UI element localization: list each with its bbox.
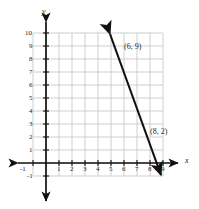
x-tick-1: 1 xyxy=(57,166,61,173)
y-tick-7: 7 xyxy=(29,69,33,76)
y-axis xyxy=(43,22,49,201)
point-label-6-9: (6, 9) xyxy=(124,43,141,51)
point-label-8-2: (8, 2) xyxy=(150,128,167,136)
y-tick-1: 1 xyxy=(29,147,33,154)
y-tick-9: 9 xyxy=(29,43,33,50)
x-tick-neg1: -1 xyxy=(20,166,26,173)
plotted-line xyxy=(110,34,161,175)
y-tick-4: 4 xyxy=(29,108,33,115)
y-tick-neg1: -1 xyxy=(27,173,33,180)
x-tick-7: 7 xyxy=(135,166,139,173)
y-tick-8: 8 xyxy=(29,56,33,63)
x-tick-9: 9 xyxy=(161,166,165,173)
chart-figure: 10 9 8 7 6 5 4 3 2 1 -1 -1 1 2 3 4 5 6 7… xyxy=(0,0,199,209)
x-tick-3: 3 xyxy=(83,166,87,173)
y-tick-5: 5 xyxy=(29,95,33,102)
x-tick-8: 8 xyxy=(148,166,152,173)
x-tick-2: 2 xyxy=(70,166,74,173)
y-axis-label: y xyxy=(42,8,46,16)
y-tick-2: 2 xyxy=(29,134,33,141)
x-axis-label: x xyxy=(185,157,189,165)
x-tick-6: 6 xyxy=(122,166,126,173)
grid-lines xyxy=(33,33,163,176)
y-tick-3: 3 xyxy=(29,121,33,128)
x-tick-5: 5 xyxy=(109,166,113,173)
y-tick-10: 10 xyxy=(25,30,32,37)
x-tick-4: 4 xyxy=(96,166,100,173)
y-tick-6: 6 xyxy=(29,82,33,89)
